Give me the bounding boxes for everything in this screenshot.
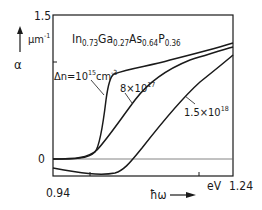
absorption-chart: 1.5 0 μm-1 α 0.94 eV 1.24 ħω In0.73Ga0.2… — [0, 0, 262, 210]
curve-8e17 — [53, 47, 233, 159]
chart-title: In0.73Ga0.27As0.64P0.36 — [72, 32, 181, 48]
x-tick-label-min: 0.94 — [46, 186, 70, 200]
series-label-1.5e18: 1.5×1018 — [184, 105, 229, 119]
y-axis-label: α — [14, 57, 22, 72]
y-tick-label-max: 1.5 — [34, 9, 51, 23]
series-label-1e15: Δn=1015cm-3 — [54, 69, 117, 83]
y-arrow-head-icon — [17, 26, 23, 34]
y-tick-label-zero: 0 — [38, 152, 45, 166]
x-axis-label: ħω — [150, 188, 167, 202]
x-tick-label-max: 1.24 — [229, 179, 253, 193]
curve-1e15 — [53, 43, 233, 159]
x-arrow-head-icon — [186, 192, 196, 198]
x-unit-label: eV — [207, 179, 222, 193]
series-label-8e17: 8×1017 — [120, 81, 155, 95]
y-unit-label: μm-1 — [28, 32, 50, 46]
label-leader-1.5e18 — [185, 96, 195, 104]
